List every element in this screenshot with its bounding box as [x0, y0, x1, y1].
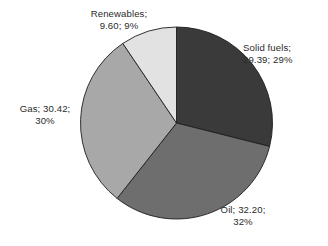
- slice-label-gas: Gas; 30.42; 30%: [6, 103, 84, 128]
- slice-label-line2: 30%: [6, 115, 84, 127]
- slice-label-line2: 9.60; 9%: [72, 20, 166, 32]
- slice-label-line1: Solid fuels;: [243, 42, 293, 54]
- slice-label-line2: 29.39; 29%: [243, 54, 293, 66]
- slice-label-oil: Oil; 32.20; 32%: [204, 204, 282, 229]
- slice-label-line1: Gas; 30.42;: [6, 103, 84, 115]
- slice-label-renewables: Renewables; 9.60; 9%: [72, 8, 166, 33]
- slice-label-line2: 32%: [204, 216, 282, 228]
- slice-label-solid-fuels: Solid fuels; 29.39; 29%: [243, 42, 293, 67]
- slice-label-line1: Oil; 32.20;: [204, 204, 282, 216]
- slice-label-line1: Renewables;: [72, 8, 166, 20]
- pie-chart: Solid fuels; 29.39; 29% Oil; 32.20; 32% …: [0, 0, 328, 246]
